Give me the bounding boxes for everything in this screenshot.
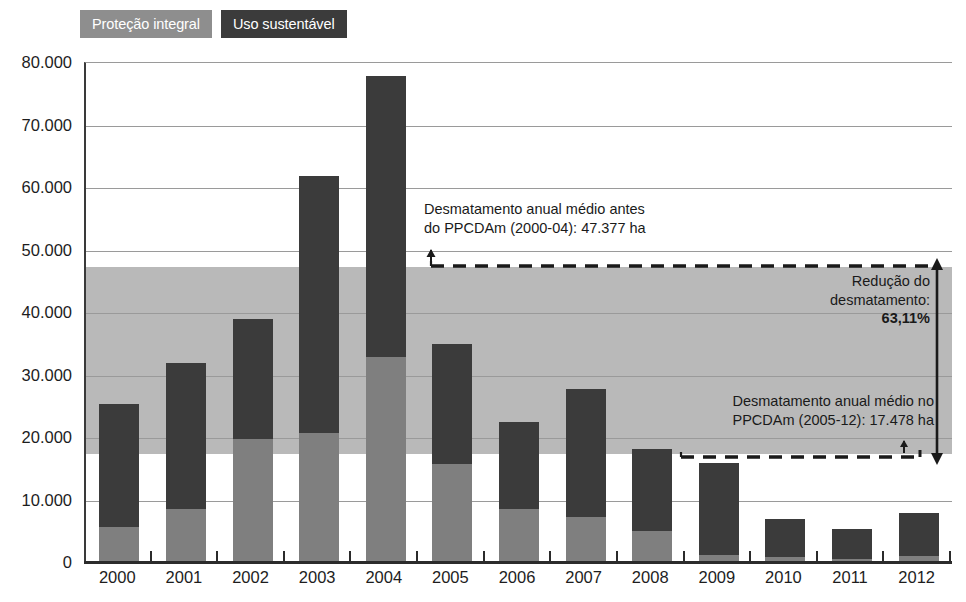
chart-container: Proteção integral Uso sustentável 010.00… — [0, 0, 966, 602]
x-axis-tick — [749, 551, 751, 562]
x-axis-label-2006: 2006 — [482, 568, 552, 587]
annotation-reduction-line2: desmatamento: 63,11% — [808, 291, 930, 328]
bar-2005[interactable] — [432, 344, 472, 563]
x-axis-label-2005: 2005 — [415, 568, 485, 587]
gridline — [86, 376, 952, 377]
bar-2010[interactable] — [765, 519, 805, 563]
annotation-after-line2: PPCDAm (2005-12): 17.478 ha — [648, 411, 934, 430]
bar-2011[interactable] — [832, 529, 872, 563]
bar-segment-uso-sustentavel — [566, 389, 606, 517]
bar-segment-uso-sustentavel — [765, 519, 805, 557]
x-axis-tick — [549, 551, 551, 562]
bar-segment-protecao-integral — [366, 357, 406, 563]
x-axis-label-2008: 2008 — [615, 568, 685, 587]
x-axis-tick — [416, 551, 418, 562]
x-axis-tick — [882, 551, 884, 562]
x-axis-label-2004: 2004 — [349, 568, 419, 587]
annotation-reduction-line1: Redução do — [808, 272, 930, 291]
x-axis-label-2012: 2012 — [882, 568, 952, 587]
x-axis-tick — [683, 551, 685, 562]
bar-segment-uso-sustentavel — [499, 422, 539, 508]
y-axis-tick-label: 0 — [0, 553, 72, 572]
bar-segment-uso-sustentavel — [432, 344, 472, 464]
x-axis-tick — [816, 551, 818, 562]
bar-2004[interactable] — [366, 76, 406, 564]
y-axis-tick-label: 60.000 — [0, 178, 72, 197]
x-axis-label-2001: 2001 — [149, 568, 219, 587]
bar-segment-uso-sustentavel — [832, 529, 872, 560]
x-axis-tick — [483, 551, 485, 562]
annotation-before-line1: Desmatamento anual médio antes — [424, 200, 724, 219]
bar-segment-uso-sustentavel — [166, 363, 206, 509]
x-axis-tick — [349, 551, 351, 562]
annotation-reduction-prefix: desmatamento: — [830, 292, 930, 308]
bar-segment-protecao-integral — [499, 509, 539, 563]
x-axis-tick — [150, 551, 152, 562]
bar-segment-protecao-integral — [233, 439, 273, 563]
bar-segment-protecao-integral — [166, 509, 206, 563]
legend-label-uso-sustentavel: Uso sustentável — [233, 16, 335, 32]
bar-segment-protecao-integral — [99, 527, 139, 563]
x-axis-line — [84, 561, 952, 564]
gridline — [86, 251, 952, 252]
legend-item-uso-sustentavel: Uso sustentável — [221, 10, 347, 38]
bar-2003[interactable] — [299, 176, 339, 564]
bar-2001[interactable] — [166, 363, 206, 563]
y-axis-tick-label: 70.000 — [0, 115, 72, 134]
annotation-before-line2: do PPCDAm (2000-04): 47.377 ha — [424, 219, 724, 238]
x-axis-label-2009: 2009 — [682, 568, 752, 587]
y-axis-tick-label: 50.000 — [0, 240, 72, 259]
bar-segment-protecao-integral — [566, 517, 606, 563]
bar-2009[interactable] — [699, 463, 739, 563]
bar-2008[interactable] — [632, 449, 672, 563]
x-axis-label-2007: 2007 — [549, 568, 619, 587]
x-axis-label-2002: 2002 — [216, 568, 286, 587]
x-axis-label-2010: 2010 — [748, 568, 818, 587]
annotation-before-ppcdam: Desmatamento anual médio antes do PPCDAm… — [424, 200, 724, 237]
x-axis-tick — [616, 551, 618, 562]
bar-2012[interactable] — [899, 513, 939, 563]
x-axis-label-2011: 2011 — [815, 568, 885, 587]
bar-2007[interactable] — [566, 389, 606, 563]
x-axis-tick — [216, 551, 218, 562]
x-axis-label-2000: 2000 — [82, 568, 152, 587]
annotation-reduction: Redução do desmatamento: 63,11% — [808, 272, 930, 328]
annotation-after-line1: Desmatamento anual médio no — [648, 392, 934, 411]
bar-segment-uso-sustentavel — [99, 404, 139, 527]
x-axis-tick — [283, 551, 285, 562]
bar-segment-protecao-integral — [299, 433, 339, 563]
gridline — [86, 188, 952, 189]
y-axis-tick-label: 20.000 — [0, 428, 72, 447]
bar-segment-uso-sustentavel — [632, 449, 672, 531]
y-axis-tick-label: 10.000 — [0, 490, 72, 509]
legend-label-protecao-integral: Proteção integral — [92, 16, 200, 32]
annotation-during-ppcdam: Desmatamento anual médio no PPCDAm (2005… — [648, 392, 934, 429]
bar-segment-uso-sustentavel — [899, 513, 939, 556]
annotation-reduction-value: 63,11% — [882, 310, 930, 326]
x-axis-label-2003: 2003 — [282, 568, 352, 587]
bar-2006[interactable] — [499, 422, 539, 563]
bar-2000[interactable] — [99, 404, 139, 563]
bar-segment-uso-sustentavel — [233, 319, 273, 439]
bar-segment-protecao-integral — [632, 531, 672, 564]
y-axis-tick-label: 80.000 — [0, 53, 72, 72]
bar-segment-uso-sustentavel — [699, 463, 739, 555]
bar-segment-uso-sustentavel — [299, 176, 339, 434]
bar-segment-protecao-integral — [432, 464, 472, 563]
y-axis-tick-label: 40.000 — [0, 303, 72, 322]
x-axis-tick — [949, 551, 951, 562]
gridline — [86, 126, 952, 127]
chart-legend: Proteção integral Uso sustentável — [80, 10, 347, 38]
y-axis-tick-label: 30.000 — [0, 365, 72, 384]
legend-item-protecao-integral: Proteção integral — [80, 10, 212, 38]
bar-segment-uso-sustentavel — [366, 76, 406, 357]
bar-2002[interactable] — [233, 319, 273, 563]
